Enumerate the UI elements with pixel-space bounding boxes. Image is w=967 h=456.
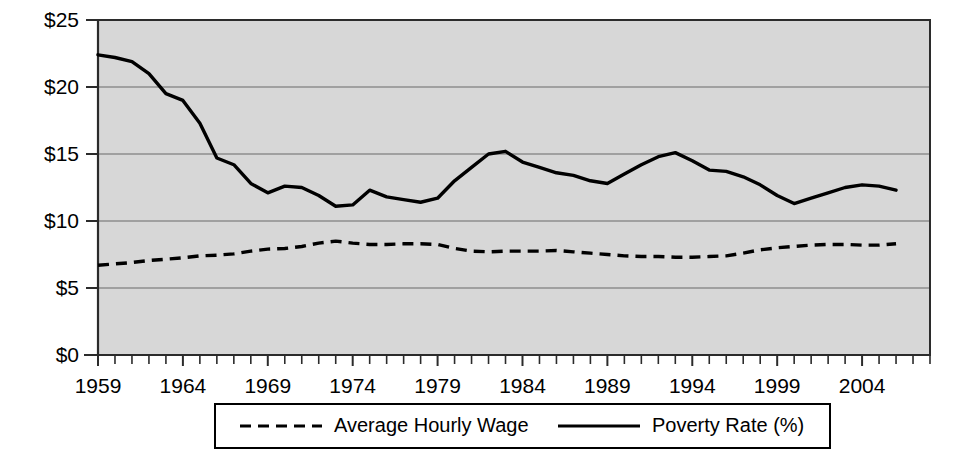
chart-legend: Average Hourly Wage Poverty Rate (%) bbox=[215, 404, 830, 448]
y-axis-tick-label: $15 bbox=[44, 142, 79, 165]
y-axis-tick-label: $20 bbox=[44, 75, 79, 98]
legend-label-average-hourly-wage: Average Hourly Wage bbox=[334, 414, 529, 436]
x-axis-tick-label: 1964 bbox=[160, 374, 207, 397]
y-axis-tick-label: $10 bbox=[44, 209, 79, 232]
y-axis-tick-label: $5 bbox=[56, 276, 79, 299]
x-axis-tick-label: 1969 bbox=[244, 374, 291, 397]
x-axis-tick-label: 1989 bbox=[584, 374, 631, 397]
x-axis-tick-label: 1999 bbox=[754, 374, 801, 397]
chart-container: $0$5$10$15$20$25 19591964196919741979198… bbox=[0, 0, 967, 456]
legend-label-poverty-rate: Poverty Rate (%) bbox=[652, 414, 804, 436]
y-axis-tick-label: $25 bbox=[44, 8, 79, 31]
x-axis-tick-label: 2004 bbox=[839, 374, 886, 397]
x-axis-tick-label: 1984 bbox=[499, 374, 546, 397]
x-axis-tick-label: 1994 bbox=[669, 374, 716, 397]
x-axis-tick-label: 1959 bbox=[75, 374, 122, 397]
plot-area-background bbox=[98, 20, 930, 355]
x-axis-tick-label: 1979 bbox=[414, 374, 461, 397]
x-axis-tick-label: 1974 bbox=[329, 374, 376, 397]
line-chart: $0$5$10$15$20$25 19591964196919741979198… bbox=[0, 0, 967, 456]
y-axis-tick-label: $0 bbox=[56, 343, 79, 366]
